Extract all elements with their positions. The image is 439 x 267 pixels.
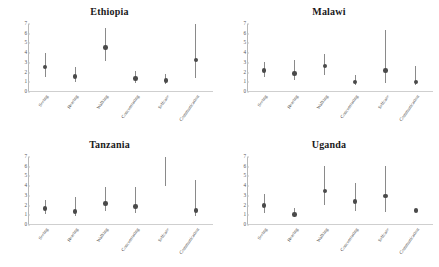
- estimate-marker: [383, 194, 387, 198]
- panel-ethiopia: Ethiopia01234567SeeingHearingWalkingConc…: [0, 0, 219, 133]
- x-axis-label: Communication: [178, 94, 200, 122]
- confidence-interval-bar: [135, 187, 136, 213]
- y-tick-mark: [28, 72, 30, 73]
- y-tick-label: 4: [243, 51, 246, 56]
- y-tick-mark: [247, 24, 249, 25]
- y-tick-label: 6: [243, 164, 246, 169]
- plot-area: 01234567SeeingHearingWalkingConcentratin…: [249, 24, 431, 92]
- y-tick-label: 5: [24, 41, 27, 46]
- estimate-marker: [353, 80, 357, 84]
- plot-area: 01234567SeeingHearingWalkingConcentratin…: [249, 157, 431, 225]
- panel-title: Ethiopia: [0, 6, 219, 17]
- estimate-marker: [43, 65, 47, 69]
- panel-title: Malawi: [219, 6, 439, 17]
- y-tick-label: 4: [243, 184, 246, 189]
- estimate-marker: [414, 80, 418, 84]
- x-axis-label: Concentrating: [339, 94, 359, 119]
- y-tick-mark: [247, 176, 249, 177]
- confidence-interval-bar: [294, 60, 295, 80]
- y-tick-mark: [247, 215, 249, 216]
- y-tick-label: 7: [24, 154, 27, 159]
- y-tick-label: 2: [243, 203, 246, 208]
- y-tick-mark: [28, 82, 30, 83]
- confidence-interval-bar: [385, 166, 386, 213]
- y-tick-mark: [28, 24, 30, 25]
- panel-title: Tanzania: [0, 139, 219, 150]
- y-tick-mark: [28, 62, 30, 63]
- y-tick-mark: [247, 166, 249, 167]
- x-axis-line: [28, 224, 213, 225]
- estimate-marker: [73, 74, 77, 78]
- y-tick-label: 0: [24, 89, 27, 94]
- estimate-marker: [262, 203, 266, 207]
- y-tick-mark: [247, 72, 249, 73]
- y-tick-mark: [247, 33, 249, 34]
- estimate-marker: [292, 71, 296, 75]
- y-tick-mark: [28, 92, 30, 93]
- y-tick-label: 5: [243, 41, 246, 46]
- y-tick-label: 1: [243, 213, 246, 218]
- y-tick-label: 4: [24, 51, 27, 56]
- y-tick-mark: [28, 33, 30, 34]
- estimate-marker: [323, 189, 327, 193]
- x-axis-label: Walking: [96, 94, 109, 110]
- y-tick-mark: [28, 195, 30, 196]
- panel-tanzania: Tanzania01234567SeeingHearingWalkingConc…: [0, 133, 219, 267]
- y-tick-mark: [28, 43, 30, 44]
- x-axis-label: Walking: [96, 227, 109, 243]
- y-tick-mark: [247, 92, 249, 93]
- estimate-marker: [194, 58, 198, 62]
- estimate-marker: [103, 201, 107, 205]
- y-tick-mark: [247, 82, 249, 83]
- y-tick-label: 7: [24, 21, 27, 26]
- panel-title: Uganda: [219, 139, 439, 150]
- y-tick-label: 7: [243, 21, 246, 26]
- estimate-marker: [73, 209, 77, 213]
- x-axis-line: [28, 91, 213, 92]
- y-tick-mark: [28, 225, 30, 226]
- x-axis-label: Selfcare: [157, 227, 170, 243]
- y-tick-label: 5: [243, 174, 246, 179]
- y-tick-mark: [247, 205, 249, 206]
- y-tick-label: 1: [24, 80, 27, 85]
- panel-malawi: Malawi01234567SeeingHearingWalkingConcen…: [219, 0, 439, 133]
- plot-area: 01234567SeeingHearingWalkingConcentratin…: [30, 157, 211, 225]
- y-tick-label: 2: [243, 70, 246, 75]
- x-axis-label: Hearing: [66, 94, 79, 110]
- y-tick-mark: [247, 62, 249, 63]
- estimate-marker: [414, 208, 418, 212]
- x-axis-label: Hearing: [66, 227, 79, 243]
- y-tick-mark: [247, 157, 249, 158]
- x-axis-label: Concentrating: [120, 227, 140, 252]
- x-axis-label: Walking: [316, 94, 329, 110]
- y-tick-label: 7: [243, 154, 246, 159]
- confidence-interval-bar: [324, 166, 325, 205]
- x-axis-label: Seeing: [257, 94, 269, 108]
- x-axis-label: Concentrating: [120, 94, 140, 119]
- x-axis-label: Selfcare: [376, 227, 389, 243]
- y-tick-mark: [247, 225, 249, 226]
- x-axis-label: Concentrating: [339, 227, 359, 252]
- y-tick-label: 3: [243, 60, 246, 65]
- x-axis-label: Communication: [398, 94, 420, 122]
- estimate-marker: [133, 76, 137, 80]
- y-tick-mark: [28, 157, 30, 158]
- estimate-marker: [383, 68, 387, 72]
- estimate-marker: [103, 45, 107, 49]
- estimate-marker: [323, 64, 327, 68]
- y-tick-label: 0: [243, 89, 246, 94]
- y-tick-label: 3: [24, 60, 27, 65]
- y-tick-label: 0: [24, 222, 27, 227]
- figure-panel-grid: Ethiopia01234567SeeingHearingWalkingConc…: [0, 0, 439, 267]
- estimate-marker: [292, 212, 296, 216]
- y-tick-label: 5: [24, 174, 27, 179]
- confidence-interval-bar: [195, 24, 196, 78]
- x-axis-label: Communication: [178, 227, 200, 255]
- y-tick-label: 2: [24, 70, 27, 75]
- panel-uganda: Uganda01234567SeeingHearingWalkingConcen…: [219, 133, 439, 267]
- estimate-marker: [262, 68, 266, 72]
- y-tick-label: 2: [24, 203, 27, 208]
- y-tick-label: 1: [243, 80, 246, 85]
- x-axis-label: Hearing: [286, 227, 299, 243]
- y-tick-label: 3: [24, 193, 27, 198]
